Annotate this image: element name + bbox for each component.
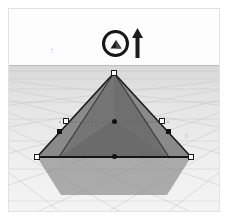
handle-base-right[interactable] <box>188 154 194 160</box>
scene-mark-left: ו <box>51 47 53 55</box>
handle-mid-left[interactable] <box>63 118 69 124</box>
scale-tool-cursor[interactable] <box>102 30 129 57</box>
modeling-viewport[interactable]: ו ɔ <box>0 0 226 218</box>
handle-base-left[interactable] <box>34 154 40 160</box>
circle-pyramid-icon <box>109 39 123 50</box>
viewport-frame: ו ɔ <box>8 8 220 212</box>
center-dot-lower[interactable] <box>112 154 117 159</box>
handle-inner-left[interactable] <box>57 129 62 134</box>
center-dot-upper[interactable] <box>112 119 117 124</box>
handle-mid-right[interactable] <box>159 118 165 124</box>
scene-mark-right: ɔ <box>184 131 188 140</box>
pyramid-shadow <box>37 157 191 195</box>
handle-apex[interactable] <box>111 70 117 76</box>
up-arrow-icon <box>131 28 144 58</box>
handle-inner-right[interactable] <box>166 129 171 134</box>
